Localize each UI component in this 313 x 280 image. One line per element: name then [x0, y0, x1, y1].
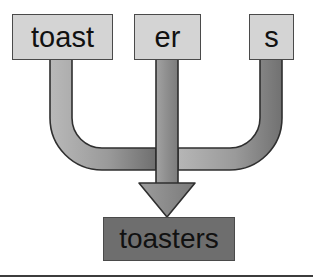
- arrowhead-icon: [139, 183, 195, 217]
- result-label-toasters: toasters: [119, 225, 219, 253]
- source-label-s: s: [264, 23, 279, 52]
- source-label-er: er: [155, 23, 181, 52]
- diagram-canvas: toast er s toasters: [0, 0, 313, 280]
- source-box-s[interactable]: s: [249, 14, 294, 60]
- footer-divider: [0, 275, 313, 277]
- branch-path-s: [178, 59, 282, 170]
- branch-path-toast: [50, 59, 156, 170]
- branch-path-er: [156, 59, 178, 184]
- source-label-toast: toast: [31, 23, 94, 52]
- result-box-toasters[interactable]: toasters: [103, 217, 235, 261]
- source-box-er[interactable]: er: [134, 14, 201, 60]
- source-box-toast[interactable]: toast: [12, 14, 113, 60]
